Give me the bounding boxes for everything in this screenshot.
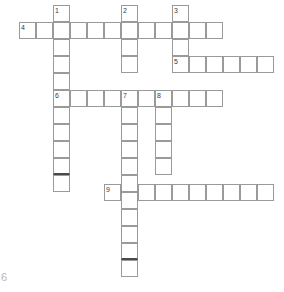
cell-c12-r5[interactable] [206, 90, 223, 107]
cell-c10-r5[interactable] [172, 90, 189, 107]
cell-c3-r2[interactable] [53, 39, 70, 56]
cell-c8-r10[interactable] [138, 184, 155, 201]
cell-c7-r7[interactable] [121, 124, 138, 141]
cell-c12-r1[interactable] [206, 22, 223, 39]
cell-c11-r10[interactable] [189, 184, 206, 201]
corner-mark: 6 [1, 272, 7, 283]
cell-c13-r10[interactable] [223, 184, 240, 201]
cell-c6-r1[interactable] [104, 22, 121, 39]
cell-c3-r6[interactable] [53, 107, 70, 124]
cell-c13-r3[interactable] [223, 56, 240, 73]
cell-c3-r9[interactable] [53, 158, 70, 175]
cell-c14-r10[interactable] [240, 184, 257, 201]
cell-c11-r5[interactable] [189, 90, 206, 107]
cell-c10-r0[interactable] [172, 5, 189, 22]
cell-c7-r10[interactable] [121, 175, 138, 192]
cell-c4-r1[interactable] [70, 22, 87, 39]
cell-c6-r5[interactable] [104, 90, 121, 107]
cell-c7-r15[interactable] [121, 260, 138, 277]
cell-c12-r10[interactable] [206, 184, 223, 201]
cell-c4-r5[interactable] [70, 90, 87, 107]
cell-c10-r3[interactable] [172, 56, 189, 73]
cell-c8-r1[interactable] [138, 22, 155, 39]
cell-c3-r3[interactable] [53, 56, 70, 73]
cell-c9-r7[interactable] [155, 124, 172, 141]
cell-c7-r12[interactable] [121, 209, 138, 226]
cell-c7-r11[interactable] [121, 192, 138, 209]
cell-c3-r1[interactable] [53, 22, 70, 39]
cell-c10-r10[interactable] [172, 184, 189, 201]
cell-c3-r8[interactable] [53, 141, 70, 158]
cell-c9-r1[interactable] [155, 22, 172, 39]
cell-c3-r5[interactable] [53, 90, 70, 107]
cell-c7-r14[interactable] [121, 243, 138, 260]
cell-c9-r6[interactable] [155, 107, 172, 124]
cell-c15-r3[interactable] [257, 56, 274, 73]
cell-c15-r10[interactable] [257, 184, 274, 201]
cell-c11-r3[interactable] [189, 56, 206, 73]
cell-c3-r10[interactable] [53, 175, 70, 192]
cell-c7-r1[interactable] [121, 22, 138, 39]
cell-c3-r7[interactable] [53, 124, 70, 141]
cell-c8-r5[interactable] [138, 90, 155, 107]
cell-c3-r4[interactable] [53, 73, 70, 90]
cell-c9-r8[interactable] [155, 141, 172, 158]
cell-c6-r10[interactable] [104, 184, 121, 201]
cell-c3-r0[interactable] [53, 5, 70, 22]
cell-c2-r1[interactable] [36, 22, 53, 39]
cell-c9-r10[interactable] [155, 184, 172, 201]
cell-c7-r13[interactable] [121, 226, 138, 243]
cell-c14-r3[interactable] [240, 56, 257, 73]
cell-c1-r1[interactable] [19, 22, 36, 39]
cell-c7-r8[interactable] [121, 141, 138, 158]
cell-c5-r1[interactable] [87, 22, 104, 39]
cell-c7-r2[interactable] [121, 39, 138, 56]
cell-c7-r6[interactable] [121, 107, 138, 124]
cell-c5-r5[interactable] [87, 90, 104, 107]
cell-c9-r9[interactable] [155, 158, 172, 175]
cell-c7-r3[interactable] [121, 56, 138, 73]
crossword-grid: 162345789 6 [0, 0, 284, 292]
cell-c12-r3[interactable] [206, 56, 223, 73]
cell-c7-r5[interactable] [121, 90, 138, 107]
cell-c10-r2[interactable] [172, 39, 189, 56]
cell-c10-r1[interactable] [172, 22, 189, 39]
cell-c7-r0[interactable] [121, 5, 138, 22]
cell-c11-r1[interactable] [189, 22, 206, 39]
cell-c9-r5[interactable] [155, 90, 172, 107]
cell-c7-r9[interactable] [121, 158, 138, 175]
